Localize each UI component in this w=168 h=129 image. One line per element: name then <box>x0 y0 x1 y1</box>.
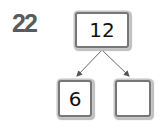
part-box-right-answer[interactable] <box>115 80 151 117</box>
arrow-right-icon <box>102 50 129 76</box>
whole-box: 12 <box>75 12 129 48</box>
arrow-left-icon <box>77 50 102 76</box>
part-box-left: 6 <box>58 80 92 117</box>
